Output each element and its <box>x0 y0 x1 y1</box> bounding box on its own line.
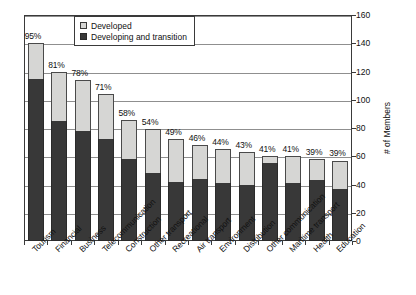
bar-data-label: 46% <box>189 133 205 143</box>
bar-data-label: 81% <box>48 60 64 70</box>
bar-data-label: 95% <box>25 31 41 41</box>
bar-segment-developing <box>51 121 67 241</box>
y-axis-title: # of Members <box>382 102 392 154</box>
y-tick-label: 120 <box>356 67 370 77</box>
bar-business <box>75 80 91 241</box>
x-tick-mark <box>305 241 306 245</box>
bar-data-label: 78% <box>72 68 88 78</box>
y-tick-label: 160 <box>356 10 370 20</box>
y-tick-label: 20 <box>356 208 365 218</box>
bar-data-label: 49% <box>165 127 181 137</box>
bar-data-label: 44% <box>212 137 228 147</box>
bar-data-label: 54% <box>142 117 158 127</box>
y-tick-label: 60 <box>356 151 365 161</box>
legend-swatch-developed-icon <box>80 22 87 29</box>
x-tick-mark <box>352 241 353 245</box>
bar-segment-developed <box>215 149 231 183</box>
x-tick-mark <box>24 241 25 245</box>
x-tick-mark <box>118 241 119 245</box>
bar-data-label: 43% <box>236 140 252 150</box>
x-tick-mark <box>188 241 189 245</box>
y-tick-label: 80 <box>356 123 365 133</box>
legend-item-developing: Developing and transition <box>80 31 187 42</box>
x-tick-mark <box>282 241 283 245</box>
bar-segment-developed <box>51 72 67 121</box>
bar-data-label: 39% <box>306 147 322 157</box>
bar-data-label: 39% <box>329 148 345 158</box>
bar-segment-developed <box>168 139 184 181</box>
bar-data-label: 41% <box>259 144 275 154</box>
bar-data-label: 41% <box>282 144 298 154</box>
x-tick-mark <box>211 241 212 245</box>
bar-segment-developed <box>28 43 44 78</box>
x-tick-mark <box>141 241 142 245</box>
bar-segment-developed <box>75 80 91 131</box>
bar-segment-developed <box>285 156 301 183</box>
x-tick-mark <box>47 241 48 245</box>
legend-item-developed: Developed <box>80 20 187 31</box>
x-tick-mark <box>329 241 330 245</box>
bar-tourism <box>28 43 44 241</box>
bar-segment-developing <box>28 79 44 241</box>
bar-data-label: 58% <box>118 108 134 118</box>
bar-segment-developed <box>121 120 137 160</box>
x-tick-mark <box>165 241 166 245</box>
stacked-bar-chart: 020406080100120140160 # of Members Touri… <box>0 0 416 295</box>
legend-swatch-developing-icon <box>80 33 87 40</box>
bar-segment-developed <box>239 152 255 184</box>
y-tick-label: 140 <box>356 38 370 48</box>
bar-data-label: 71% <box>95 82 111 92</box>
y-tick-label: 100 <box>356 95 370 105</box>
bar-segment-developed <box>145 129 161 173</box>
bar-segment-developed <box>98 94 114 139</box>
bar-telecommunication <box>98 94 114 241</box>
x-tick-mark <box>258 241 259 245</box>
chart-legend: Developed Developing and transition <box>74 16 195 46</box>
y-tick-label: 40 <box>356 180 365 190</box>
bar-segment-developed <box>309 159 325 180</box>
legend-label-developing: Developing and transition <box>91 32 187 42</box>
bar-financial <box>51 72 67 242</box>
bar-segment-developed <box>332 161 348 189</box>
x-tick-mark <box>94 241 95 245</box>
legend-label-developed: Developed <box>91 21 132 31</box>
x-tick-mark <box>71 241 72 245</box>
bar-segment-developed <box>262 156 278 163</box>
bar-segment-developed <box>192 145 208 179</box>
x-tick-mark <box>235 241 236 245</box>
